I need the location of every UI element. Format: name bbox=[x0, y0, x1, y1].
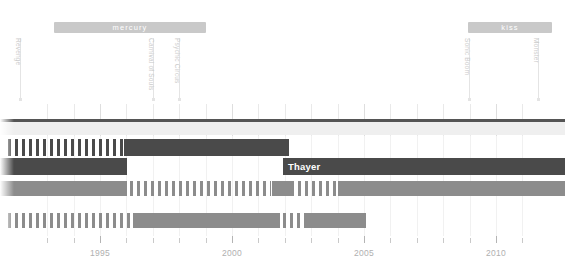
axis-tick-2004 bbox=[338, 238, 339, 243]
row-touring-dark-segment-0[interactable] bbox=[0, 158, 127, 175]
axis-tick-2011 bbox=[522, 238, 523, 243]
axis-label-2000: 2000 bbox=[222, 248, 242, 258]
row-light-band bbox=[0, 122, 565, 135]
era-kiss[interactable]: kiss bbox=[468, 22, 552, 33]
row-touring-dark: Thayer bbox=[0, 158, 565, 175]
axis-tick-1993 bbox=[47, 238, 48, 243]
row-releases-mid-segment-0[interactable] bbox=[8, 213, 130, 228]
axis-label-1995: 1995 bbox=[90, 248, 110, 258]
event-psychic-circus-marker-dot bbox=[178, 98, 181, 101]
era-kiss-label: kiss bbox=[501, 23, 518, 32]
left-fade-overlay bbox=[0, 0, 14, 270]
event-sonic-boom-label: Sonic Boom bbox=[464, 38, 471, 75]
axis-tick-2001 bbox=[258, 238, 259, 243]
axis-tick-2010 bbox=[496, 236, 497, 243]
era-mercury-label: mercury bbox=[113, 23, 148, 32]
row-members-mid-segment-2[interactable] bbox=[272, 181, 294, 196]
row-members-mid-segment-1[interactable] bbox=[130, 181, 271, 196]
era-mercury[interactable]: mercury bbox=[54, 22, 206, 33]
row-discography-dark bbox=[0, 139, 565, 156]
event-revenge-marker-dot bbox=[19, 98, 22, 101]
row-members-mid-segment-3[interactable] bbox=[298, 181, 338, 196]
row-releases-mid-segment-3[interactable] bbox=[304, 213, 366, 228]
axis-tick-2005 bbox=[364, 236, 365, 243]
event-psychic-circus-label: Psychic Circus bbox=[174, 38, 181, 83]
row-members-mid-segment-0[interactable] bbox=[0, 181, 127, 196]
axis-tick-2008 bbox=[443, 238, 444, 243]
axis-tick-1999 bbox=[206, 238, 207, 243]
row-touring-dark-segment-1[interactable] bbox=[283, 158, 565, 175]
event-monster-marker-dot bbox=[537, 98, 540, 101]
row-members-mid-segment-4[interactable] bbox=[338, 181, 565, 196]
axis-tick-2003 bbox=[311, 238, 312, 243]
axis-tick-1996 bbox=[126, 238, 127, 243]
row-releases-mid-segment-1[interactable] bbox=[133, 213, 280, 228]
row-light-band-segment-0[interactable] bbox=[0, 122, 565, 135]
event-revenge-label: Revenge bbox=[15, 38, 22, 65]
axis-tick-2007 bbox=[417, 238, 418, 243]
event-carnival-of-souls-label: Carnival of Souls bbox=[148, 38, 155, 91]
event-sonic-boom-marker-dot bbox=[468, 98, 471, 101]
event-carnival-of-souls-marker-dot bbox=[152, 98, 155, 101]
row-releases-mid-segment-2[interactable] bbox=[283, 213, 301, 228]
row-members-mid bbox=[0, 181, 565, 196]
axis-label-2010: 2010 bbox=[486, 248, 506, 258]
row-discography-dark-segment-0[interactable] bbox=[8, 139, 124, 156]
row-touring-dark-label: Thayer bbox=[288, 161, 320, 172]
axis-tick-1995 bbox=[100, 236, 101, 243]
axis-tick-1994 bbox=[74, 238, 75, 243]
row-releases-mid bbox=[0, 213, 565, 228]
axis-label-2005: 2005 bbox=[354, 248, 374, 258]
event-monster-label: Monster bbox=[533, 38, 540, 63]
axis-tick-2000 bbox=[232, 236, 233, 243]
axis-tick-2002 bbox=[285, 238, 286, 243]
row-discography-dark-segment-1[interactable] bbox=[124, 139, 289, 156]
axis-tick-1997 bbox=[153, 238, 154, 243]
axis-tick-2009 bbox=[470, 238, 471, 243]
timeline-canvas: 1995200020052010 mercurykiss RevengeCarn… bbox=[0, 0, 565, 270]
axis-tick-2006 bbox=[390, 238, 391, 243]
axis-tick-1998 bbox=[179, 238, 180, 243]
